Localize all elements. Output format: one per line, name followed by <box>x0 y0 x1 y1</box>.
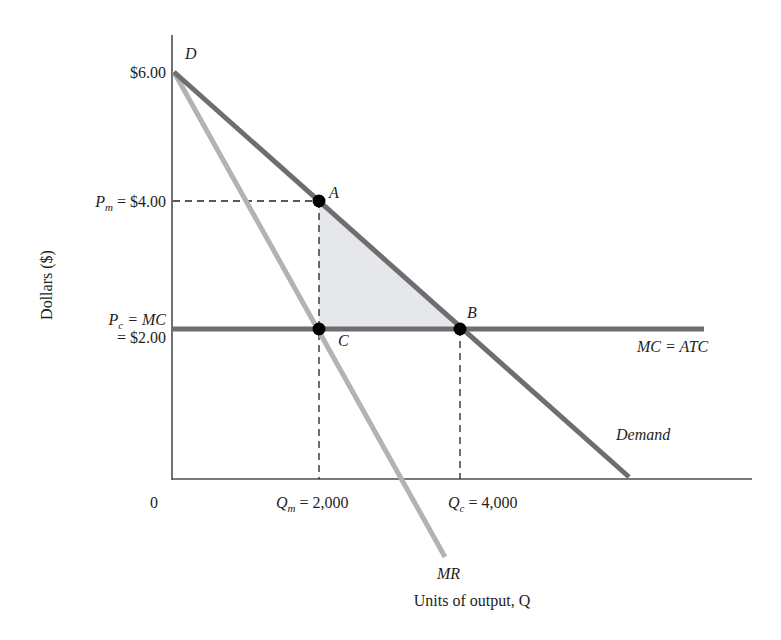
point-b <box>454 323 467 336</box>
mc-atc-label: MC = ATC <box>636 338 709 355</box>
x-axis-title: Units of output, Q <box>414 592 531 610</box>
point-c-label: C <box>338 332 349 349</box>
demand-curve <box>174 72 629 477</box>
y-tick-2-line2: = $2.00 <box>117 329 166 346</box>
y-tick-6: $6.00 <box>130 64 166 81</box>
demand-label: Demand <box>615 426 671 443</box>
point-a <box>313 195 326 208</box>
x-tick-2000: Qm = 2,000 <box>276 494 349 514</box>
point-c <box>313 323 326 336</box>
x-tick-4000: Qc = 4,000 <box>448 494 517 514</box>
mr-label: MR <box>436 565 460 582</box>
point-a-label: A <box>328 184 339 201</box>
monopoly-deadweight-loss-chart: A B C D Demand MR MC = ATC $6.00 Pm = $4… <box>0 0 781 640</box>
demand-top-label: D <box>184 45 197 62</box>
y-tick-2-line1: Pc = MC <box>108 311 167 331</box>
point-b-label: B <box>467 304 477 321</box>
origin-label: 0 <box>150 494 158 511</box>
y-tick-4: Pm = $4.00 <box>94 193 166 213</box>
y-axis-title: Dollars ($) <box>38 250 56 320</box>
